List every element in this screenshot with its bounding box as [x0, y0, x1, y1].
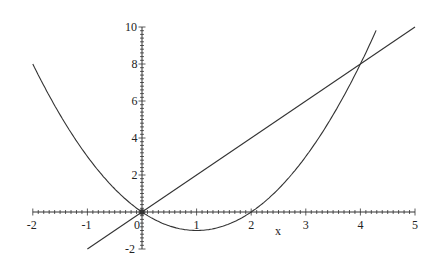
x-tick-label: 3	[303, 218, 309, 232]
axes	[33, 27, 415, 249]
parabola-curve	[33, 30, 376, 230]
y-tick-label: 10	[125, 20, 137, 34]
origin-marker	[140, 210, 145, 215]
y-tick-label: -2	[125, 242, 135, 256]
x-tick-label: 2	[248, 218, 254, 232]
x-tick-label: -1	[81, 218, 91, 232]
tick-labels: -2-1012345-2246810	[27, 20, 418, 256]
x-tick-label: 1	[194, 218, 200, 232]
plot-area: -2-1012345-2246810 x	[0, 0, 440, 265]
y-tick-label: 4	[132, 131, 138, 145]
x-tick-label: 5	[412, 218, 418, 232]
x-tick-label: -2	[27, 218, 37, 232]
y-tick-label: 8	[132, 57, 138, 71]
y-tick-label: 6	[132, 94, 138, 108]
x-axis-label: x	[275, 224, 281, 238]
x-tick-label: 4	[357, 218, 363, 232]
x-tick-label: 0	[134, 218, 140, 232]
curves	[33, 27, 415, 249]
y-tick-label: 2	[132, 168, 138, 182]
